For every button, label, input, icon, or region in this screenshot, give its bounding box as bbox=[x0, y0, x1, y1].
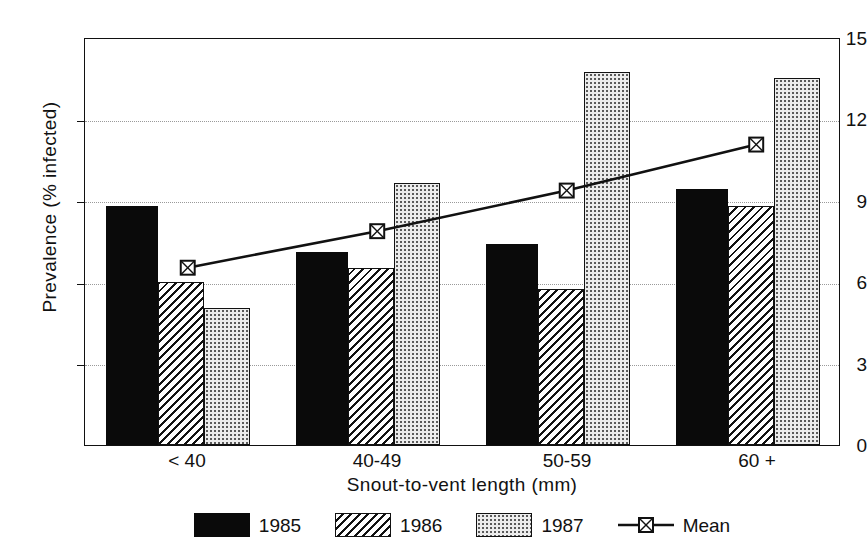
legend-item-1986: 1986 bbox=[335, 513, 442, 537]
hatched-swatch-icon bbox=[335, 513, 391, 537]
mean-marker-50-59 bbox=[560, 184, 574, 198]
solid-black-swatch-icon bbox=[194, 513, 250, 537]
legend-label-1985: 1985 bbox=[259, 516, 301, 535]
mean-line-series bbox=[85, 39, 839, 445]
y-axis-title: Prevalence (% infected) bbox=[39, 7, 61, 407]
dotted-swatch-icon bbox=[476, 513, 532, 537]
legend-item-mean: Mean bbox=[618, 513, 731, 537]
mean-marker-lt40 bbox=[181, 261, 195, 275]
x-axis-title: Snout-to-vent length (mm) bbox=[84, 474, 840, 496]
x-tick-label-40-49: 40-49 bbox=[295, 450, 459, 472]
y-tickmark-6 bbox=[77, 284, 85, 285]
y-tickmark-12 bbox=[77, 121, 85, 122]
legend-label-1986: 1986 bbox=[400, 516, 442, 535]
x-tick-label-50-59: 50-59 bbox=[485, 450, 649, 472]
chart-legend: 1985 1986 1987 Mean bbox=[84, 505, 840, 545]
x-tick-label-60plus: 60 + bbox=[675, 450, 839, 472]
mean-marker-40-49 bbox=[370, 224, 384, 238]
legend-label-mean: Mean bbox=[683, 516, 731, 535]
line-marker-swatch-icon bbox=[618, 513, 674, 537]
mean-marker-group bbox=[181, 138, 763, 275]
y-tickmark-9 bbox=[77, 202, 85, 203]
x-tick-label-lt40: < 40 bbox=[105, 450, 269, 472]
y-tickmark-3 bbox=[77, 365, 85, 366]
legend-label-1987: 1987 bbox=[541, 516, 583, 535]
plot-area bbox=[84, 38, 840, 446]
mean-marker-60plus bbox=[749, 138, 763, 152]
legend-item-1985: 1985 bbox=[194, 513, 301, 537]
legend-item-1987: 1987 bbox=[476, 513, 583, 537]
chart-container: Prevalence (% infected) 15 12 9 6 3 0 bbox=[0, 0, 867, 552]
mean-line-path bbox=[188, 145, 756, 268]
